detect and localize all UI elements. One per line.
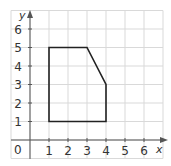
y-axis-arrow-icon: [27, 10, 33, 18]
x-tick-label: 5: [121, 144, 129, 158]
x-tick-label: 2: [64, 144, 72, 158]
y-tick-label: 5: [14, 41, 22, 55]
y-tick-label: 3: [14, 78, 22, 92]
y-axis-label: y: [18, 9, 26, 22]
coordinate-grid-chart: 123456123456 x y 0: [0, 0, 171, 166]
y-tick-label: 4: [14, 60, 22, 74]
x-tick-label: 1: [45, 144, 53, 158]
y-tick-label: 2: [14, 97, 22, 111]
tick-labels: 123456123456: [14, 23, 147, 159]
x-tick-label: 3: [83, 144, 91, 158]
x-axis-label: x: [155, 143, 163, 156]
y-tick-label: 1: [14, 115, 22, 129]
x-tick-label: 6: [140, 144, 148, 158]
grid-lines: [11, 11, 163, 159]
y-tick-label: 6: [14, 23, 22, 37]
origin-label: 0: [14, 143, 22, 157]
x-tick-label: 4: [102, 144, 110, 158]
